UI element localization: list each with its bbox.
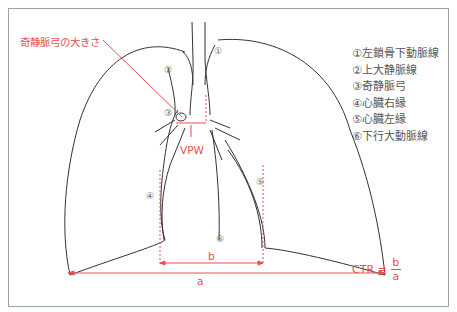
marker-1: ① (214, 46, 222, 56)
a-label: a (197, 275, 203, 287)
marker-5: ⑤ (256, 177, 264, 187)
marker-4: ④ (146, 191, 154, 201)
azygos-size-label: 奇静脈弓の大きさ (20, 34, 100, 49)
legend-item: ①左鎖骨下動脈線 (352, 46, 439, 63)
marker-3: ③ (164, 108, 172, 118)
vpw-label: VPW (180, 144, 204, 156)
legend-item: ④心臓右縁 (352, 96, 439, 113)
marker-6: ⑥ (216, 234, 224, 244)
right-lung-outline (65, 47, 185, 275)
legend-item: ③奇静脈弓 (352, 79, 439, 96)
legend-item: ⑥下行大動脈線 (352, 129, 439, 146)
b-label: b (208, 250, 215, 262)
legend-item: ⑤心臓左縁 (352, 112, 439, 129)
marker-2: ② (164, 65, 172, 75)
ctr-formula: CTR = ba (352, 257, 401, 282)
legend: ①左鎖骨下動脈線 ②上大静脈線 ③奇静脈弓 ④心臓右縁 ⑤心臓左縁 ⑥下行大動脈… (352, 46, 439, 145)
legend-item: ②上大静脈線 (352, 63, 439, 80)
